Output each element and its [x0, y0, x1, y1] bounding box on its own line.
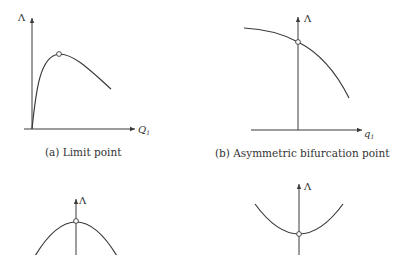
bifurcation-point-marker: [297, 232, 302, 237]
y-axis-label: Λ: [303, 181, 312, 192]
x-axis-label: Q1: [138, 124, 150, 136]
bifurcation-point-marker: [74, 219, 79, 224]
panel-c-symmetric-bifurcation: Λ: [35, 195, 117, 255]
limit-point-marker: [57, 52, 62, 57]
caption-b: (b) Asymmetric bifurcation point: [215, 147, 390, 159]
x-axis-label: q1: [364, 128, 374, 140]
panel-b-asymmetric-bifurcation: Λ q1 (b) Asymmetric bifurcation point: [215, 13, 390, 159]
y-axis-label: Λ: [78, 195, 87, 206]
panel-a-limit-point: Λ Q1 (a) Limit point: [17, 12, 150, 158]
y-axis-label: Λ: [17, 12, 26, 23]
figure: Λ Q1 (a) Limit point Λ q1 (b) Asymmetric…: [0, 0, 396, 255]
equilibrium-path: [244, 28, 349, 98]
bifurcation-point-marker: [296, 40, 301, 45]
caption-a: (a) Limit point: [45, 146, 122, 158]
y-axis-label: Λ: [303, 13, 312, 24]
panel-d-symmetric-bifurcation: Λ: [255, 181, 343, 255]
equilibrium-path: [32, 54, 111, 129]
